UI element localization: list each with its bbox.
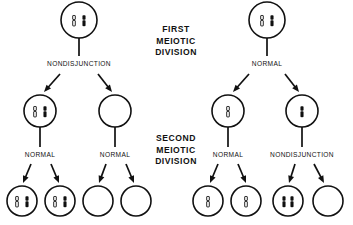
arrow-gamete-4 bbox=[126, 164, 134, 183]
arrow-right-first-to-light bbox=[233, 74, 249, 92]
right-outer-second-division-label: NONDISJUNCTION bbox=[270, 151, 334, 158]
chromosome-light bbox=[34, 107, 37, 117]
stage-label-layer: FIRSTMEIOTICDIVISIONSECONDMEIOTICDIVISIO… bbox=[155, 24, 197, 166]
first-division-line-3: DIVISION bbox=[155, 47, 197, 57]
cell-membrane bbox=[231, 186, 261, 216]
left-first-division-label: NONDISJUNCTION bbox=[47, 60, 111, 67]
chromosome-dark bbox=[301, 107, 304, 117]
chromosome-dark bbox=[44, 107, 47, 117]
cell-membrane bbox=[83, 186, 113, 216]
arrow-left-first-to-nullisomic bbox=[98, 74, 112, 92]
cell-membrane bbox=[61, 2, 97, 38]
second-division-label: SECONDMEIOTICDIVISION bbox=[155, 133, 197, 166]
right-first-division-label: NORMAL bbox=[252, 60, 282, 67]
right-secondary-cell-light bbox=[212, 95, 244, 127]
meiosis-nondisjunction-diagram: NONDISJUNCTIONNORMALNORMALNORMALNORMALNO… bbox=[0, 0, 353, 225]
arrow-layer bbox=[23, 74, 324, 183]
arrow-gamete-6 bbox=[238, 164, 246, 183]
gamete-1 bbox=[7, 186, 37, 216]
cell-membrane bbox=[212, 95, 244, 127]
arrow-gamete-5 bbox=[210, 164, 218, 183]
chromosome-dark bbox=[271, 16, 274, 26]
left-parent-cell bbox=[61, 2, 97, 38]
second-division-line-2: MEIOTIC bbox=[156, 145, 195, 155]
first-division-label: FIRSTMEIOTICDIVISION bbox=[155, 24, 197, 57]
second-division-line-3: DIVISION bbox=[155, 156, 197, 166]
cell-membrane bbox=[286, 95, 318, 127]
gamete-7 bbox=[273, 186, 303, 216]
left-inner-second-division-label: NORMAL bbox=[25, 151, 55, 158]
chromosome-light bbox=[207, 197, 210, 207]
chromosome-dark bbox=[26, 197, 29, 207]
chromosome-light bbox=[16, 197, 19, 207]
diagram-canvas: NONDISJUNCTIONNORMALNORMALNORMALNORMALNO… bbox=[0, 0, 353, 225]
cell-membrane bbox=[7, 186, 37, 216]
arrow-gamete-3 bbox=[99, 164, 106, 183]
chromosome-light bbox=[54, 197, 57, 207]
cell-membrane bbox=[273, 186, 303, 216]
arrow-right-first-to-dark bbox=[285, 74, 299, 92]
chromosome-light bbox=[261, 16, 264, 26]
right-secondary-cell-dark bbox=[286, 95, 318, 127]
cell-membrane bbox=[24, 95, 56, 127]
chromosome-dark bbox=[283, 197, 286, 207]
chromosome-light bbox=[73, 16, 76, 26]
right-parent-cell bbox=[249, 2, 285, 38]
arrow-gamete-7 bbox=[288, 164, 295, 183]
cell-membrane bbox=[45, 186, 75, 216]
cell-membrane bbox=[313, 186, 343, 216]
arrow-gamete-2 bbox=[51, 164, 59, 183]
arrow-gamete-1 bbox=[23, 164, 31, 183]
second-division-line-1: SECOND bbox=[156, 133, 196, 143]
chromosome-dark bbox=[291, 197, 294, 207]
gamete-5 bbox=[193, 186, 223, 216]
gamete-3 bbox=[83, 186, 113, 216]
first-division-line-1: FIRST bbox=[162, 24, 190, 34]
cell-membrane bbox=[249, 2, 285, 38]
cell-membrane bbox=[99, 95, 131, 127]
gamete-4 bbox=[121, 186, 151, 216]
gamete-6 bbox=[231, 186, 261, 216]
chromosome-dark bbox=[64, 197, 67, 207]
gamete-2 bbox=[45, 186, 75, 216]
chromosome-light bbox=[227, 107, 230, 117]
cell-membrane bbox=[193, 186, 223, 216]
left-secondary-cell-nullisomic bbox=[99, 95, 131, 127]
chromosome-dark bbox=[83, 16, 86, 26]
left-outer-second-division-label: NORMAL bbox=[100, 151, 130, 158]
arrow-gamete-8 bbox=[314, 164, 324, 183]
right-inner-second-division-label: NORMAL bbox=[213, 151, 243, 158]
gamete-8 bbox=[313, 186, 343, 216]
first-division-line-2: MEIOTIC bbox=[156, 36, 195, 46]
chromosome-light bbox=[245, 197, 248, 207]
arrow-left-first-to-disomic bbox=[44, 74, 60, 92]
left-secondary-cell-disomic bbox=[24, 95, 56, 127]
cell-membrane bbox=[121, 186, 151, 216]
